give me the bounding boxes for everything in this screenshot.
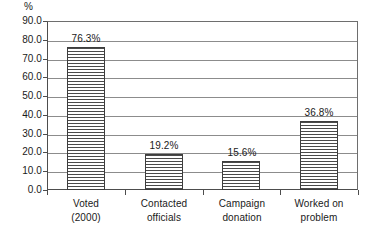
x-axis-category-label: Campaigndonation [203,197,281,225]
y-axis-tick-label: 90.0 [22,16,42,26]
y-axis-tick-label: 50.0 [22,91,42,101]
x-axis-category-label-line: problem [280,211,358,225]
y-axis-unit-label: % [24,1,33,12]
bar-chart: % 90.080.070.060.050.040.030.020.010.00.… [0,0,377,237]
x-axis-category-label-line: Contacted [125,197,203,211]
bar-value-label: 36.8% [280,107,358,118]
y-axis-tick-label: 20.0 [22,147,42,157]
x-axis-category-label-line: Voted [47,197,125,211]
x-axis-category-label: Worked onproblem [280,197,358,225]
x-axis-tick [358,190,359,195]
x-axis-category-label: Voted(2000) [47,197,125,225]
y-axis-tick [43,171,47,172]
y-axis-tick-label: 80.0 [22,35,42,45]
x-axis-tick [203,190,204,195]
y-axis-tick [43,21,47,22]
x-axis-tick [125,190,126,195]
y-axis-tick-label: 10.0 [22,166,42,176]
y-axis-tick [43,77,47,78]
y-axis-tick-label: 30.0 [22,129,42,139]
x-axis-category-label-line: officials [125,211,203,225]
x-axis-tick [280,190,281,195]
x-axis-category-label: Contactedofficials [125,197,203,225]
bar [67,47,105,190]
bar-value-label: 76.3% [47,33,125,44]
x-axis-tick [47,190,48,195]
y-axis-tick [43,152,47,153]
y-axis-tick-label: 0.0 [28,185,42,195]
x-axis-category-label-line: Campaign [203,197,281,211]
y-axis-tick [43,134,47,135]
bar-value-label: 15.6% [203,147,281,158]
bar [300,121,338,190]
x-axis-category-label-line: Worked on [280,197,358,211]
y-axis-tick-label: 40.0 [22,110,42,120]
bar [145,154,183,190]
bar-value-label: 19.2% [125,140,203,151]
y-axis-tick [43,59,47,60]
y-axis-tick-label: 70.0 [22,54,42,64]
bar [222,161,260,190]
y-axis-tick-label: 60.0 [22,72,42,82]
y-axis-tick [43,96,47,97]
y-axis-tick [43,115,47,116]
x-axis-category-label-line: donation [203,211,281,225]
x-axis-category-label-line: (2000) [47,211,125,225]
